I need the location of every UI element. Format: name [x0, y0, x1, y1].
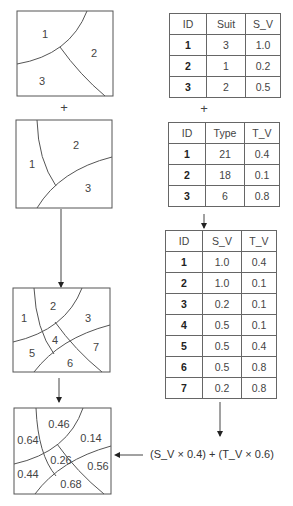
- cell: 0.8: [242, 357, 277, 378]
- cell: 0.2: [203, 378, 242, 399]
- cell: 0.1: [242, 294, 277, 315]
- type-map: [0, 100, 150, 210]
- header-cell: ID: [166, 231, 203, 252]
- cell: 0.5: [246, 77, 281, 98]
- id-cell: 5: [166, 336, 203, 357]
- polygon-label: 3: [39, 75, 45, 87]
- table-header-row: ID Suit S_V: [170, 14, 281, 35]
- cell: 1: [207, 56, 246, 77]
- table-row: 3 2 0.5: [170, 77, 281, 98]
- header-cell: T_V: [242, 231, 277, 252]
- cell: 0.8: [245, 186, 280, 207]
- id-cell: 1: [169, 144, 206, 165]
- table-row: 4 0.5 0.1: [166, 315, 277, 336]
- value-label: 0.46: [48, 418, 69, 430]
- header-cell: T_V: [245, 123, 280, 144]
- cell: 0.5: [203, 315, 242, 336]
- cell: 0.1: [242, 315, 277, 336]
- plus-sign: +: [200, 101, 208, 116]
- table-row: 1 3 1.0: [170, 35, 281, 56]
- table-row: 7 0.2 0.8: [166, 378, 277, 399]
- table-row: 3 0.2 0.1: [166, 294, 277, 315]
- value-label: 0.14: [80, 432, 101, 444]
- table-row: 2 1.0 0.1: [166, 273, 277, 294]
- cell: 3: [207, 35, 246, 56]
- id-cell: 1: [170, 35, 207, 56]
- polygon-label: 3: [85, 312, 91, 324]
- cell: 18: [206, 165, 245, 186]
- table-row: 2 18 0.1: [169, 165, 280, 186]
- id-cell: 3: [170, 77, 207, 98]
- cell: 0.2: [246, 56, 281, 77]
- table-header-row: ID S_V T_V: [166, 231, 277, 252]
- cell: 0.1: [242, 273, 277, 294]
- cell: 0.5: [203, 336, 242, 357]
- id-cell: 3: [169, 186, 206, 207]
- header-cell: ID: [170, 14, 207, 35]
- value-label: 0.44: [17, 468, 38, 480]
- weighting-formula: (S_V × 0.4) + (T_V × 0.6): [150, 448, 274, 460]
- polygon-label: 5: [29, 347, 35, 359]
- table-row: 5 0.5 0.4: [166, 336, 277, 357]
- polygon-label: 2: [73, 139, 79, 151]
- cell: 2: [207, 77, 246, 98]
- overlay-map: [0, 280, 150, 380]
- cell: 0.5: [203, 357, 242, 378]
- id-cell: 2: [166, 273, 203, 294]
- cell: 1.0: [203, 252, 242, 273]
- table-row: 1 21 0.4: [169, 144, 280, 165]
- id-cell: 4: [166, 315, 203, 336]
- table-row: 6 0.5 0.8: [166, 357, 277, 378]
- type-table: ID Type T_V 1 21 0.4 2 18 0.1 3 6 0.8: [168, 122, 280, 207]
- table-row: 3 6 0.8: [169, 186, 280, 207]
- table-header-row: ID Type T_V: [169, 123, 280, 144]
- polygon-label: 1: [21, 312, 27, 324]
- cell: 0.4: [245, 144, 280, 165]
- cell: 21: [206, 144, 245, 165]
- combined-table: ID S_V T_V 1 1.0 0.4 2 1.0 0.1 3 0.2 0.1…: [165, 230, 277, 399]
- polygon-label: 2: [91, 47, 97, 59]
- polygon-label: 1: [29, 158, 35, 170]
- id-cell: 6: [166, 357, 203, 378]
- cell: 6: [206, 186, 245, 207]
- value-label: 0.26: [50, 454, 71, 466]
- polygon-label: 2: [50, 300, 56, 312]
- result-map: [0, 400, 150, 506]
- polygon-label: 6: [67, 357, 73, 369]
- header-cell: S_V: [203, 231, 242, 252]
- table-row: 1 1.0 0.4: [166, 252, 277, 273]
- polygon-label: 4: [52, 334, 58, 346]
- value-label: 0.64: [17, 434, 38, 446]
- id-cell: 2: [169, 165, 206, 186]
- cell: 0.8: [242, 378, 277, 399]
- header-cell: S_V: [246, 14, 281, 35]
- header-cell: Suit: [207, 14, 246, 35]
- cell: 1.0: [246, 35, 281, 56]
- polygon-label: 1: [42, 28, 48, 40]
- header-cell: ID: [169, 123, 206, 144]
- value-label: 0.56: [87, 460, 108, 472]
- value-label: 0.68: [60, 478, 81, 490]
- id-cell: 3: [166, 294, 203, 315]
- polygon-label: 3: [85, 182, 91, 194]
- header-cell: Type: [206, 123, 245, 144]
- cell: 1.0: [203, 273, 242, 294]
- cell: 0.4: [242, 336, 277, 357]
- cell: 0.1: [245, 165, 280, 186]
- cell: 0.2: [203, 294, 242, 315]
- suitability-table: ID Suit S_V 1 3 1.0 2 1 0.2 3 2 0.5: [169, 13, 281, 98]
- id-cell: 1: [166, 252, 203, 273]
- suitability-map: [0, 0, 150, 100]
- cell: 0.4: [242, 252, 277, 273]
- id-cell: 7: [166, 378, 203, 399]
- table-row: 2 1 0.2: [170, 56, 281, 77]
- polygon-label: 7: [93, 341, 99, 353]
- id-cell: 2: [170, 56, 207, 77]
